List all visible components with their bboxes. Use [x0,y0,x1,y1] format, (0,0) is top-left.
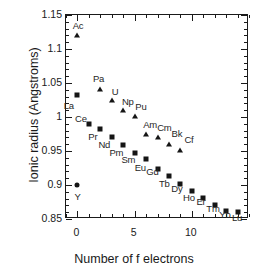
y-tick-minor-right [244,137,247,138]
data-point-la [75,92,80,97]
y-tick-minor-right [244,110,247,111]
y-tick-minor [66,63,69,64]
y-tick-major-right [241,117,247,118]
point-label-pu: Pu [135,101,146,112]
point-label-lu: Lu [232,211,242,222]
y-tick-minor [66,124,69,125]
y-tick-minor [66,192,69,193]
point-label-er: Er [196,196,205,207]
y-tick-minor [66,131,69,132]
y-tick-major-right [241,151,247,152]
y-tick-minor [66,76,69,77]
y-tick-minor-right [244,124,247,125]
y-tick-minor [66,171,69,172]
point-label-tm: Tm [206,203,219,214]
y-tick-minor-right [244,158,247,159]
data-point-np [120,108,126,113]
data-point-pr [98,126,103,131]
x-tick-minor-top [66,15,67,18]
x-tick-minor-top [215,15,216,18]
y-tick-minor-right [244,35,247,36]
y-tick-minor-right [244,144,247,145]
y-tick-minor-right [244,171,247,172]
data-point-y [75,183,80,188]
point-label-gd: Gd [146,166,158,177]
x-tick-minor [146,214,147,217]
y-tick-label: 1 [18,110,62,122]
point-label-ho: Ho [183,191,195,202]
x-tick-major [135,211,136,217]
x-tick-major-top [192,15,193,21]
y-tick-major [66,49,72,50]
data-point-am [143,132,149,137]
x-tick-minor [203,214,204,217]
x-tick-minor [169,214,170,217]
y-tick-label: 0.9 [18,178,62,190]
x-tick-minor-top [100,15,101,18]
x-tick-major [192,211,193,217]
y-tick-minor [66,110,69,111]
x-tick-minor-top [123,15,124,18]
y-tick-minor-right [244,63,247,64]
y-tick-minor-right [244,97,247,98]
y-tick-minor-right [244,29,247,30]
point-label-ac: Ac [73,19,84,30]
point-label-yb: Yb [219,209,230,220]
y-tick-minor-right [244,212,247,213]
x-axis-title: Number of f electrons [0,252,268,266]
y-tick-minor-right [244,192,247,193]
y-tick-major-right [241,15,247,16]
y-tick-minor [66,137,69,138]
y-tick-label: 1.1 [18,42,62,54]
x-tick-major [77,211,78,217]
y-tick-major [66,185,72,186]
x-tick-label: 0 [74,226,80,238]
point-label-sm: Sm [121,154,135,165]
y-tick-minor [66,205,69,206]
y-tick-minor-right [244,131,247,132]
data-point-ac [74,33,80,38]
y-tick-minor [66,165,69,166]
y-tick-minor [66,178,69,179]
x-tick-minor [249,214,250,217]
x-tick-minor-top [238,15,239,18]
point-label-pr: Pr [88,131,97,142]
x-tick-minor-top [180,15,181,18]
y-tick-label: 1.05 [18,76,62,88]
y-tick-major-right [241,185,247,186]
x-tick-minor [89,214,90,217]
y-tick-minor [66,69,69,70]
y-tick-major [66,151,72,152]
y-tick-major-right [241,49,247,50]
point-label-y: Y [75,190,81,201]
y-tick-minor-right [244,165,247,166]
x-tick-minor-top [203,15,204,18]
point-label-eu: Eu [135,162,146,173]
y-tick-minor [66,158,69,159]
x-tick-minor [112,214,113,217]
y-tick-minor [66,22,69,23]
x-tick-minor-top [89,15,90,18]
y-tick-minor-right [244,90,247,91]
y-tick-minor [66,144,69,145]
point-label-cf: Cf [184,134,193,145]
y-tick-label: 0.85 [18,212,62,224]
point-label-la: La [64,99,74,110]
data-point-u [109,98,115,103]
point-label-np: Np [122,95,134,106]
y-tick-minor [66,29,69,30]
y-tick-minor [66,35,69,36]
x-tick-minor-top [169,15,170,18]
ionic-radius-scatter-figure: LaCePrNdPmSmEuGdTbDyHoErTmYbLuAcPaUNpPuA… [0,0,268,271]
y-tick-minor [66,199,69,200]
x-tick-minor-top [112,15,113,18]
x-tick-minor-top [249,15,250,18]
point-label-pa: Pa [93,73,104,84]
data-point-cf [177,148,183,153]
y-tick-major [66,219,72,220]
x-tick-minor [100,214,101,217]
point-label-u: U [112,86,119,97]
y-tick-label: 1.15 [18,8,62,20]
data-point-pu [132,114,138,119]
y-tick-minor-right [244,205,247,206]
